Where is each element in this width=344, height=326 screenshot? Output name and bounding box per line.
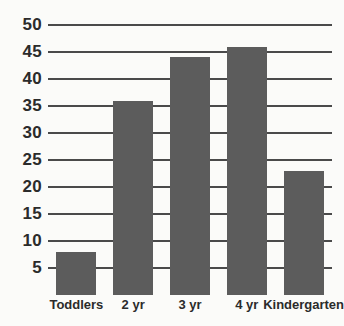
bar[interactable] <box>170 57 210 295</box>
y-axis-tick-label: 20 <box>2 178 42 195</box>
bar[interactable] <box>227 47 267 295</box>
y-axis-tick-label: 35 <box>2 97 42 114</box>
bar[interactable] <box>113 101 153 295</box>
y-axis-tick-label: 10 <box>2 232 42 249</box>
y-axis-tick-label: 5 <box>2 259 42 276</box>
bar-chart: 5045403530252015105Toddlers2 yr3 yr4 yrK… <box>0 0 344 326</box>
y-axis-tick-label: 30 <box>2 124 42 141</box>
bar[interactable] <box>284 171 324 295</box>
y-axis-tick-label: 40 <box>2 70 42 87</box>
gridline <box>48 24 332 26</box>
x-axis-tick-label: Kindergarten <box>244 298 344 312</box>
bar[interactable] <box>56 252 96 295</box>
y-axis-tick-label: 45 <box>2 43 42 60</box>
y-axis-tick-label: 50 <box>2 16 42 33</box>
y-axis-tick-label: 15 <box>2 205 42 222</box>
y-axis-tick-label: 25 <box>2 151 42 168</box>
gridline <box>48 51 332 53</box>
plot-area: 5045403530252015105Toddlers2 yr3 yr4 yrK… <box>0 0 344 326</box>
